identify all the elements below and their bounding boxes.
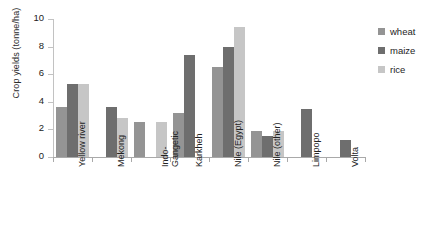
- y-axis-tick-label: 8: [39, 40, 44, 51]
- bar-group: [326, 19, 365, 157]
- bar-wheat: [251, 131, 262, 157]
- bar-chart: Crop yields (tonne/ha) 0246810 Yellow ri…: [0, 0, 438, 242]
- legend-label: wheat: [390, 26, 415, 37]
- x-axis-category-label: Mekong: [116, 135, 126, 167]
- x-axis-tick: [209, 157, 210, 162]
- legend-item-wheat[interactable]: wheat: [378, 22, 436, 41]
- x-axis-category-label: Yellow river: [77, 121, 87, 167]
- category-label-line: Limpopo: [311, 132, 321, 167]
- y-axis-title: Crop yields (tonne/ha): [11, 0, 21, 113]
- x-axis-tick: [287, 157, 288, 162]
- legend-label: maize: [390, 45, 415, 56]
- x-axis-tick: [53, 157, 54, 162]
- category-label-line: Karkheh: [194, 133, 204, 167]
- category-label-line: Yellow river: [77, 121, 87, 167]
- bar-wheat: [134, 122, 145, 157]
- x-axis-category-label: Volta: [350, 147, 360, 167]
- y-axis-tick-label: 2: [39, 122, 44, 133]
- legend-swatch-icon: [378, 28, 385, 35]
- legend-item-maize[interactable]: maize: [378, 41, 436, 60]
- x-axis-tick: [326, 157, 327, 162]
- category-label-line: Gangetic: [170, 131, 180, 167]
- bar-wheat: [212, 67, 223, 157]
- y-axis-tick-label: 4: [39, 95, 44, 106]
- x-axis-tick: [131, 157, 132, 162]
- legend-swatch-icon: [378, 47, 385, 54]
- y-axis-tick-label: 0: [39, 150, 44, 161]
- y-axis-tick-label: 10: [33, 12, 44, 23]
- category-label-line: Mekong: [116, 135, 126, 167]
- y-axis-tick-label: 6: [39, 67, 44, 78]
- category-label-line: Nile (Egypt): [233, 120, 243, 167]
- bar-wheat: [56, 107, 67, 157]
- x-axis-category-label: Nile (Egypt): [233, 120, 243, 167]
- category-label-line: Nile (other): [272, 122, 282, 167]
- x-axis-category-label: Karkheh: [194, 133, 204, 167]
- category-label-line: Volta: [350, 147, 360, 167]
- x-axis-tick: [92, 157, 93, 162]
- category-label-line: Indo-: [160, 131, 170, 167]
- legend-label: rice: [390, 64, 405, 75]
- x-axis-category-label: Limpopo: [311, 132, 321, 167]
- plot-area: 0246810 Yellow riverMekongIndo-GangeticK…: [53, 19, 365, 157]
- x-axis-category-label: Nile (other): [272, 122, 282, 167]
- x-axis-category-label: Indo-Gangetic: [160, 131, 180, 167]
- x-axis-tick: [365, 157, 366, 162]
- legend-swatch-icon: [378, 66, 385, 73]
- x-axis-tick: [248, 157, 249, 162]
- legend-item-rice[interactable]: rice: [378, 60, 436, 79]
- chart-legend: wheatmaizerice: [378, 22, 436, 79]
